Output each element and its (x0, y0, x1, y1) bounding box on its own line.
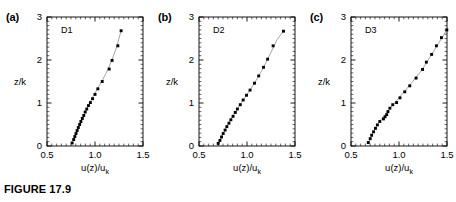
data-point (78, 123, 81, 126)
panel-a-plot: 0.51.01.50123z/ku(z)/ukD1 (0, 0, 152, 180)
data-point (77, 126, 80, 129)
x-tick-label: 0.5 (40, 149, 53, 160)
series-label: D1 (61, 25, 73, 35)
data-point (116, 44, 119, 47)
series-label: D3 (365, 25, 377, 35)
data-point (71, 142, 74, 145)
x-tick-label: 1.5 (136, 149, 149, 160)
data-point (408, 84, 411, 87)
x-tick-label: 1.0 (240, 149, 253, 160)
data-point (234, 111, 237, 114)
data-point (87, 104, 90, 107)
data-point (372, 130, 375, 133)
y-tick-label: 1 (341, 97, 346, 108)
data-point (262, 66, 265, 69)
data-point (249, 89, 252, 92)
x-axis-label: u(z)/uk (385, 162, 413, 175)
data-point (399, 96, 402, 99)
y-tick-label: 0 (189, 140, 194, 151)
data-point (72, 138, 75, 141)
panel-b-plot: 0.51.01.50123z/ku(z)/ukD2 (152, 0, 304, 180)
data-point (120, 29, 123, 32)
series-label: D2 (213, 25, 225, 35)
x-tick-label: 1.5 (440, 149, 453, 160)
x-axis-label: u(z)/uk (81, 162, 109, 175)
y-tick-label: 1 (189, 97, 194, 108)
y-tick-label: 1 (37, 97, 42, 108)
data-point (81, 117, 84, 120)
panel-a: (a) 0.51.01.50123z/ku(z)/ukD1 (0, 0, 152, 180)
data-point (82, 114, 85, 117)
data-point (421, 68, 424, 71)
panel-c: (c) 0.51.01.50123z/ku(z)/ukD3 (304, 0, 456, 180)
data-point (225, 125, 228, 128)
y-axis-label: z/k (318, 76, 330, 87)
panel-c-plot: 0.51.01.50123z/ku(z)/ukD3 (304, 0, 456, 180)
data-point (224, 129, 227, 132)
data-point (253, 82, 256, 85)
y-tick-label: 2 (189, 54, 194, 65)
y-tick-label: 3 (189, 11, 194, 22)
data-point (266, 58, 269, 61)
y-tick-label: 3 (341, 11, 346, 22)
data-point (79, 120, 82, 123)
x-tick-label: 1.0 (88, 149, 101, 160)
y-tick-label: 3 (37, 11, 42, 22)
data-point (430, 53, 433, 56)
data-point (222, 132, 225, 135)
data-point (239, 103, 242, 106)
data-point (374, 127, 377, 130)
data-point (96, 87, 99, 90)
data-point (445, 28, 448, 31)
data-point (403, 90, 406, 93)
data-point (272, 44, 275, 47)
data-point (376, 123, 379, 126)
plot-frame (199, 17, 295, 146)
data-point (94, 93, 97, 96)
data-point (111, 59, 114, 62)
data-point (378, 120, 381, 123)
plot-frame (47, 17, 143, 146)
data-point (425, 61, 428, 64)
data-point (229, 118, 232, 121)
y-axis-label: z/k (166, 76, 178, 87)
data-point (236, 108, 239, 111)
data-point (385, 113, 388, 116)
data-point (108, 68, 111, 71)
data-point (388, 107, 391, 110)
data-point (369, 137, 372, 140)
x-axis-label: u(z)/uk (233, 162, 261, 175)
data-point (91, 97, 94, 100)
data-point (73, 135, 76, 138)
data-point (282, 30, 285, 33)
data-point (218, 139, 221, 142)
data-point (75, 132, 78, 135)
y-tick-label: 2 (37, 54, 42, 65)
data-point (257, 74, 260, 77)
data-point (89, 101, 92, 104)
data-point (220, 136, 223, 139)
data-point (435, 44, 438, 47)
data-point (391, 103, 394, 106)
data-point (370, 134, 373, 137)
x-tick-label: 0.5 (344, 149, 357, 160)
panel-b: (b) 0.51.01.50123z/ku(z)/ukD2 (152, 0, 304, 180)
data-point (217, 142, 220, 145)
data-point (76, 129, 79, 132)
y-axis-label: z/k (14, 76, 26, 87)
data-point (395, 101, 398, 104)
y-tick-label: 0 (37, 140, 42, 151)
data-point (242, 99, 245, 102)
figure-caption: FIGURE 17.9 (4, 183, 71, 195)
data-point (232, 115, 235, 118)
data-point (415, 77, 418, 80)
data-point (85, 108, 88, 111)
data-point (84, 111, 87, 114)
data-point (440, 36, 443, 39)
data-point (245, 94, 248, 97)
data-point (228, 122, 231, 125)
plot-frame (351, 17, 447, 146)
figure-17-9: (a) 0.51.01.50123z/ku(z)/ukD1 (b) 0.51.0… (0, 0, 456, 202)
x-tick-label: 0.5 (192, 149, 205, 160)
data-point (387, 110, 390, 113)
